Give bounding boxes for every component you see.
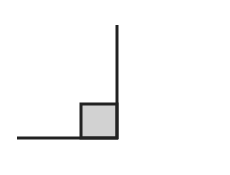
right-angle-diagram — [0, 0, 230, 175]
right-angle-marker-square — [81, 104, 117, 138]
